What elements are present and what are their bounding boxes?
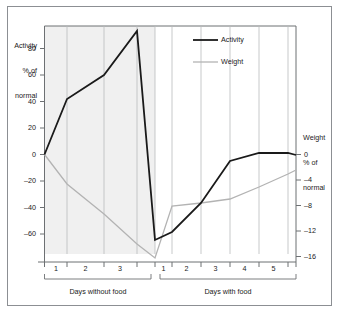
right-tick-label-minus12: –12 (304, 227, 330, 235)
right-axis-title: Weight % of normal (303, 117, 337, 209)
right-tick-label-minus8: –8 (304, 202, 330, 210)
legend-label-activity: Activity (221, 36, 244, 44)
left-tick-label-20: 20 (10, 124, 36, 132)
xlabel-with-4: 4 (238, 265, 252, 273)
bracket-with-food (160, 274, 296, 279)
right-tick-label-0: 0 (304, 151, 330, 159)
xlabel-with-2: 2 (180, 265, 194, 273)
group-label-with-food: Days with food (176, 288, 280, 296)
xlabel-with-3: 3 (209, 265, 223, 273)
right-tick-label-minus4: –4 (304, 176, 330, 184)
left-tick-label-40: 40 (10, 98, 36, 106)
xlabel-with-5: 5 (267, 265, 281, 273)
right-tick-label-minus16: –16 (304, 253, 330, 261)
bracket-without-food (45, 274, 152, 279)
right-axis-title-line-2: % of (303, 159, 337, 167)
left-tick-label-80: 80 (10, 45, 36, 53)
left-tick-label-minus60: –60 (10, 230, 36, 238)
xlabel-without-2: 2 (79, 265, 93, 273)
left-tick-label-0: 0 (10, 151, 36, 159)
shaded-region-without-food (45, 26, 156, 254)
left-tick-label-minus40: –40 (10, 204, 36, 212)
left-tick-label-60: 60 (10, 71, 36, 79)
group-label-without-food: Days without food (46, 288, 150, 296)
xlabel-without-1: 1 (49, 265, 63, 273)
right-axis-title-line-3: normal (303, 184, 337, 192)
xlabel-with-1: 1 (157, 265, 171, 273)
right-axis-title-line-1: Weight (303, 134, 337, 142)
left-tick-label-minus20: –20 (10, 177, 36, 185)
chart-figure: Activity % of normal Weight % of normal … (0, 0, 339, 312)
xlabel-without-3: 3 (113, 265, 127, 273)
legend-label-weight: Weight (221, 58, 243, 66)
